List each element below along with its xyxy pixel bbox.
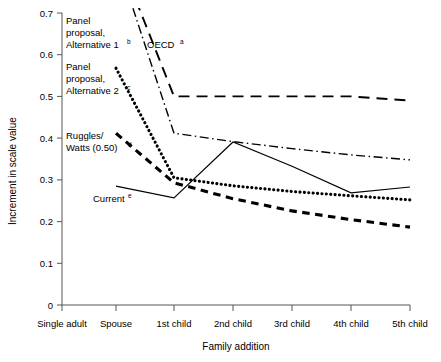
series-line-panel-alt1 xyxy=(122,0,410,160)
label-alt2-line2: proposal, xyxy=(66,73,105,84)
y-tick-0-4: 0.4 xyxy=(40,133,53,144)
y-tick-0-1: 0.1 xyxy=(40,258,53,269)
y-tick-0-3: 0.3 xyxy=(40,174,53,185)
y-axis-ticks: 0.7 0.6 0.5 0.4 0.3 0.2 0.1 0 xyxy=(40,8,62,311)
label-alt1-line1: Panel xyxy=(66,15,90,26)
label-ruggles-line1: Ruggles/ xyxy=(66,130,104,141)
x-tick-3rd-child: 3rd child xyxy=(274,318,310,329)
x-axis-ticks: Single adult Spouse 1st child 2nd child … xyxy=(37,305,428,329)
x-tick-spouse: Spouse xyxy=(100,318,132,329)
label-alt2-superscript: c xyxy=(127,84,131,91)
annotation-panel-alt1: Panel proposal, Alternative 1 b xyxy=(66,15,131,50)
y-axis-title: Increment in scale value xyxy=(7,117,18,225)
x-tick-single-adult: Single adult xyxy=(37,318,87,329)
x-tick-2nd-child: 2nd child xyxy=(214,318,252,329)
series-line-ruggles-watts xyxy=(116,133,410,227)
label-alt2-line3: Alternative 2 xyxy=(66,85,119,96)
x-tick-1st-child: 1st child xyxy=(157,318,192,329)
label-ruggles-superscript: d xyxy=(128,141,132,148)
x-tick-4th-child: 4th child xyxy=(333,318,368,329)
x-axis-title: Family addition xyxy=(202,341,269,352)
annotation-panel-alt2: Panel proposal, Alternative 2 c xyxy=(66,61,131,96)
label-oecd: OECD xyxy=(147,39,175,50)
label-current: Current xyxy=(93,193,125,204)
line-chart: Increment in scale value 0.7 0.6 0.5 0.4… xyxy=(0,0,441,362)
annotation-oecd: OECD a xyxy=(147,38,184,50)
y-tick-0: 0 xyxy=(48,300,53,311)
label-alt1-line2: proposal, xyxy=(66,27,105,38)
label-alt1-line3: Alternative 1 xyxy=(66,39,119,50)
series-line-panel-alt2 xyxy=(116,68,410,200)
series-line-oecd xyxy=(116,0,410,101)
y-tick-0-2: 0.2 xyxy=(40,216,53,227)
label-current-superscript: e xyxy=(128,192,132,199)
label-alt2-line1: Panel xyxy=(66,61,90,72)
chart-container: Increment in scale value 0.7 0.6 0.5 0.4… xyxy=(0,0,441,362)
label-ruggles-line2: Watts (0.50) xyxy=(66,142,117,153)
y-tick-0-6: 0.6 xyxy=(40,49,53,60)
y-tick-0-5: 0.5 xyxy=(40,91,53,102)
y-tick-0-7: 0.7 xyxy=(40,8,53,19)
label-alt1-superscript: b xyxy=(127,38,131,45)
x-tick-5th-child: 5th child xyxy=(392,318,427,329)
annotation-current: Current e xyxy=(93,192,132,204)
annotation-ruggles-watts: Ruggles/ Watts (0.50) d xyxy=(66,130,132,153)
label-oecd-superscript: a xyxy=(180,38,184,45)
